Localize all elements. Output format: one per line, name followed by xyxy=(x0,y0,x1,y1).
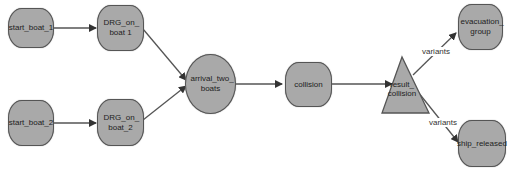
node-label: arrival_two_ boats xyxy=(191,74,231,94)
node-label: evacuation_ group xyxy=(461,17,501,37)
node-label: start_boat_1 xyxy=(9,23,53,33)
node-start-boat-1[interactable]: start_boat_1 xyxy=(8,8,54,48)
edge-label-variants-top: variants xyxy=(421,47,451,56)
node-evacuation-group[interactable]: evacuation_ group xyxy=(458,4,503,50)
edge-drg2-arrival xyxy=(143,86,186,120)
edges-layer xyxy=(0,0,509,174)
node-drg-on-boat-2[interactable]: DRG_on_ boat_2 xyxy=(97,99,144,146)
result-collision-label: result_ collision xyxy=(384,80,420,98)
edge-label-variants-bottom: variants xyxy=(428,118,458,127)
node-label: DRG_on_ boat_2 xyxy=(104,113,138,133)
diagram-canvas: start_boat_1 DRG_on_ boat 1 start_boat_2… xyxy=(0,0,509,174)
node-collision[interactable]: collision xyxy=(285,62,332,107)
node-arrival-two-boats[interactable]: arrival_two_ boats xyxy=(185,54,236,114)
node-label: collision xyxy=(294,80,322,90)
node-start-boat-2[interactable]: start_boat_2 xyxy=(8,100,54,146)
node-label: DRG_on_ boat 1 xyxy=(104,18,138,38)
edge-drg1-arrival xyxy=(143,29,186,80)
node-label: start_boat_2 xyxy=(9,118,53,128)
edge-result-ship xyxy=(418,92,458,142)
node-ship-released[interactable]: ship_released xyxy=(458,120,506,167)
node-drg-on-boat-1[interactable]: DRG_on_ boat 1 xyxy=(97,5,144,51)
node-label: ship_released xyxy=(457,139,507,149)
